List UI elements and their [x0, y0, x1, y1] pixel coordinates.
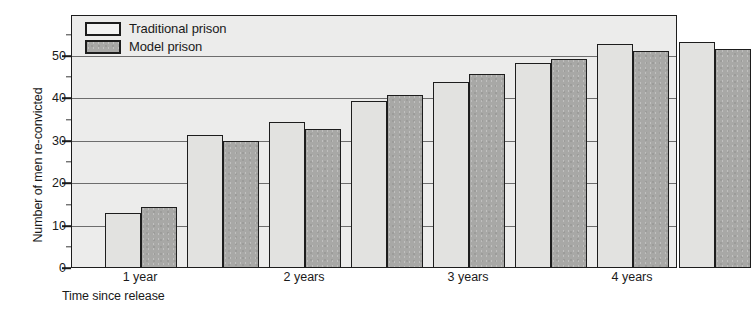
bar-1-5-year-model	[223, 141, 259, 268]
bar-2-year-traditional	[269, 122, 305, 268]
bar-2-5-year-traditional	[351, 101, 387, 268]
legend-item-traditional: Traditional prison	[85, 21, 226, 36]
bar-4-year-traditional	[597, 44, 633, 268]
bar-3-year-model	[469, 74, 505, 268]
legend-label-traditional: Traditional prison	[129, 21, 226, 36]
chart-legend: Traditional prison Model prison	[85, 21, 226, 54]
bar-1-year-traditional	[105, 213, 141, 268]
y-tick-major-0	[62, 267, 71, 269]
bar-1-year-model	[141, 207, 177, 268]
y-tick-major-50	[62, 55, 71, 57]
x-tick-label-3-years: 3 years	[448, 270, 489, 284]
legend-label-model: Model prison	[129, 39, 202, 54]
legend-item-model: Model prison	[85, 39, 226, 54]
y-tick-major-10	[62, 225, 71, 227]
x-tick-label-4-years: 4 years	[612, 270, 653, 284]
x-axis-tick-labels: 1 year 2 years 3 years 4 years	[71, 270, 677, 290]
x-axis-title: Time since release	[62, 289, 165, 303]
legend-swatch-traditional-icon	[85, 22, 121, 36]
bar-3-year-traditional	[433, 82, 469, 268]
bar-4-5-year-traditional	[679, 42, 715, 268]
y-tick-major-40	[62, 97, 71, 99]
bar-3-5-year-model	[551, 59, 587, 268]
plot-area: Traditional prison Model prison	[71, 15, 677, 268]
x-tick-label-1-year: 1 year	[123, 270, 158, 284]
bar-3-5-year-traditional	[515, 63, 551, 268]
x-tick-label-2-years: 2 years	[284, 270, 325, 284]
bar-2-year-model	[305, 129, 341, 268]
y-tick-major-30	[62, 140, 71, 142]
y-tick-major-20	[62, 182, 71, 184]
bar-2-5-year-model	[387, 95, 423, 268]
bar-1-5-year-traditional	[187, 135, 223, 268]
legend-swatch-model-icon	[85, 40, 121, 54]
bar-4-year-model	[633, 51, 669, 268]
bar-4-5-year-model	[715, 49, 751, 268]
